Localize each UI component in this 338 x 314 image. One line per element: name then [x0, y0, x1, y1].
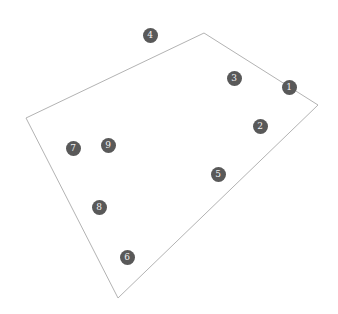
marker-6: 6	[120, 250, 135, 265]
polygon-canvas	[0, 0, 338, 314]
marker-3: 3	[227, 71, 242, 86]
marker-4: 4	[143, 28, 158, 43]
marker-1: 1	[282, 80, 297, 95]
marker-5: 5	[211, 167, 226, 182]
marker-2: 2	[253, 119, 268, 134]
quadrilateral-outline	[26, 33, 318, 298]
marker-9: 9	[101, 138, 116, 153]
marker-7: 7	[66, 141, 81, 156]
marker-8: 8	[92, 200, 107, 215]
